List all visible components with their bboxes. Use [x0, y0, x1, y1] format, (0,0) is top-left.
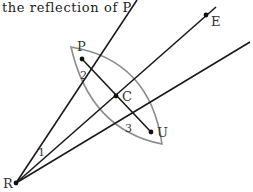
- label-C: C: [122, 89, 132, 104]
- label-E: E: [211, 14, 221, 29]
- angle-label-2: 2: [80, 69, 87, 82]
- caption-text: the reflection of P: [2, 0, 132, 16]
- geometry-figure: P C U R E 1 2 3: [0, 0, 253, 192]
- point-P-marker: [80, 57, 85, 62]
- diagram-canvas: the reflection of P P C U R E 1 2 3: [0, 0, 253, 192]
- angle-label-3: 3: [125, 122, 132, 135]
- angle-label-1: 1: [38, 146, 45, 159]
- label-P: P: [77, 39, 86, 54]
- label-R: R: [3, 176, 14, 191]
- point-E-marker: [204, 13, 209, 18]
- point-R-marker: [14, 181, 19, 186]
- point-C-marker: [114, 94, 119, 99]
- point-U-marker: [149, 130, 154, 135]
- label-U: U: [157, 125, 168, 140]
